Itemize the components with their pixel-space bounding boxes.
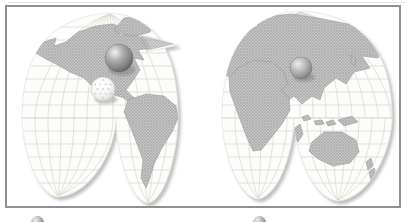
map-panel [0, 0, 413, 222]
island-united-kingdom [217, 46, 224, 56]
world-map-interrupted-projection[interactable] [0, 0, 413, 222]
